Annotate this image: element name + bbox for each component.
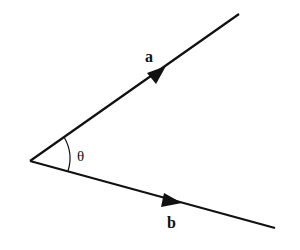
vector-a-line (30, 14, 239, 161)
vector-a-label: a (145, 48, 153, 65)
vector-angle-diagram: a b θ (0, 0, 300, 250)
arrowhead-a-icon (147, 66, 166, 84)
vector-b-label: b (167, 214, 176, 231)
vector-b-line (30, 161, 275, 228)
arrowhead-b-icon (161, 193, 182, 207)
angle-arc (64, 137, 70, 171)
diagram-svg: a b θ (0, 0, 300, 250)
angle-theta-label: θ (77, 148, 84, 164)
